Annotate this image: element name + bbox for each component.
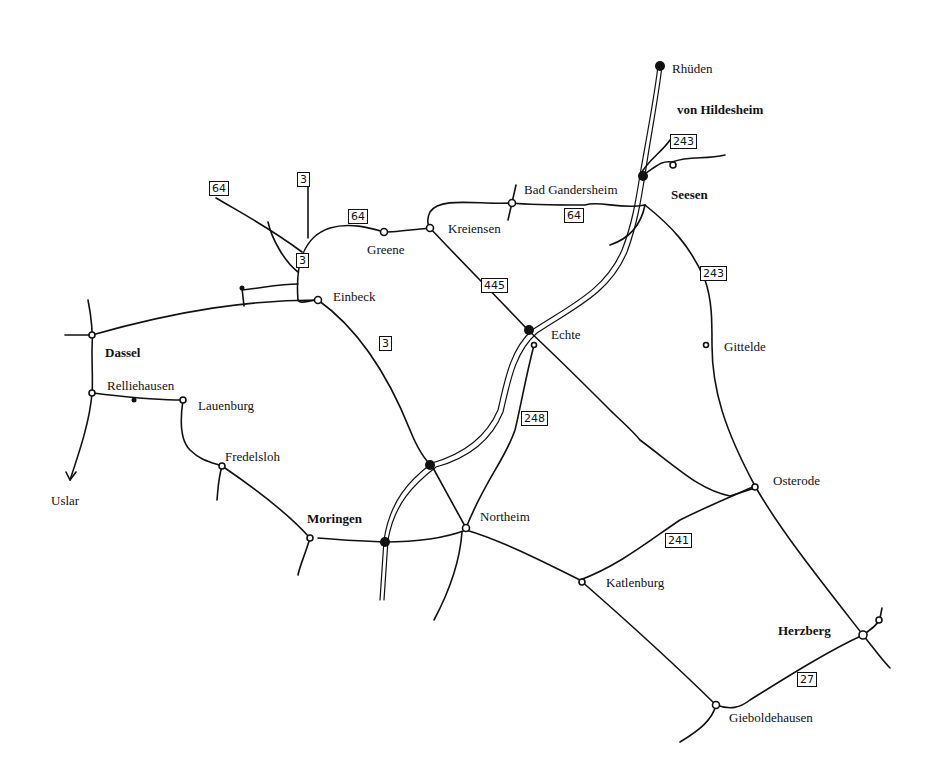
route-shield-241: 241	[665, 533, 692, 548]
place-label-gieboldehausen: Gieboldehausen	[729, 711, 813, 724]
place-label-echte: Echte	[551, 328, 581, 341]
route-shield-3-north: 3	[297, 172, 310, 187]
place-label-seesen: Seesen	[671, 188, 708, 201]
place-label-osterode: Osterode	[773, 474, 820, 487]
place-label-bad-gandersheim: Bad Gandersheim	[524, 183, 618, 196]
place-label-einbeck: Einbeck	[333, 290, 376, 303]
place-label-relliehausen: Relliehausen	[107, 379, 174, 392]
route-shield-27: 27	[797, 672, 817, 687]
place-label-herzberg: Herzberg	[778, 624, 831, 637]
place-label-rhueden: Rhüden	[672, 62, 712, 75]
route-shield-3-einbeck: 3	[296, 253, 309, 268]
place-label-northeim: Northeim	[480, 510, 530, 523]
route-shield-243-north: 243	[670, 134, 697, 149]
place-label-gittelde: Gittelde	[724, 340, 766, 353]
route-shield-243-gittelde: 243	[700, 266, 727, 281]
place-label-lauenburg: Lauenburg	[198, 399, 254, 412]
route-shield-3-south: 3	[379, 336, 392, 351]
route-shield-64-gandersheim: 64	[564, 208, 584, 223]
place-label-fredelsloh: Fredelsloh	[225, 450, 280, 463]
place-label-von-hildesheim: von Hildesheim	[677, 103, 763, 116]
place-label-moringen: Moringen	[307, 512, 362, 525]
route-shield-64-greene: 64	[348, 209, 368, 224]
nodes	[89, 61, 882, 709]
route-shield-445: 445	[481, 278, 508, 293]
place-label-greene: Greene	[367, 243, 405, 256]
place-label-kreiensen: Kreiensen	[448, 222, 501, 235]
place-label-uslar: Uslar	[51, 494, 79, 507]
route-shield-64-west: 64	[209, 181, 229, 196]
place-label-dassel: Dassel	[105, 346, 140, 359]
place-label-katlenburg: Katlenburg	[606, 576, 664, 589]
route-shield-248: 248	[521, 411, 548, 426]
